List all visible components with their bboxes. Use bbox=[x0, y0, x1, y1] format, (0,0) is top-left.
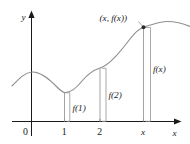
point-label-leader bbox=[139, 22, 143, 26]
point-marker-group bbox=[139, 22, 146, 30]
x-axis-arrowhead bbox=[174, 118, 182, 124]
x-tick-label-2: 2 bbox=[97, 126, 102, 137]
fx-annotation-label: f(x) bbox=[153, 64, 166, 74]
x-tick-label-1: 1 bbox=[62, 126, 67, 137]
f2-annotation-label: f(2) bbox=[109, 90, 122, 100]
bracket-f1 bbox=[67, 93, 70, 122]
graph-canvas: y x 0 1 2 x f(1) f(2) f(x) (x, f(x)) bbox=[0, 0, 190, 144]
x-tick-label-x: x bbox=[140, 127, 146, 137]
x-axis-label: x bbox=[172, 128, 178, 138]
function-graph-figure: y x 0 1 2 x f(1) f(2) f(x) (x, f(x)) bbox=[0, 0, 190, 144]
text-labels: y x 0 1 2 x f(1) f(2) f(x) (x, f(x)) bbox=[21, 12, 178, 138]
curve-group bbox=[12, 21, 190, 92]
bracket-fx bbox=[146, 28, 151, 122]
f1-annotation-label: f(1) bbox=[73, 103, 86, 113]
point-coordinate-label: (x, f(x)) bbox=[100, 13, 128, 23]
y-axis-label: y bbox=[21, 12, 27, 22]
origin-label: 0 bbox=[23, 126, 28, 137]
bracket-f2 bbox=[102, 68, 106, 121]
y-axis-arrowhead bbox=[28, 11, 34, 19]
function-curve bbox=[12, 21, 190, 92]
